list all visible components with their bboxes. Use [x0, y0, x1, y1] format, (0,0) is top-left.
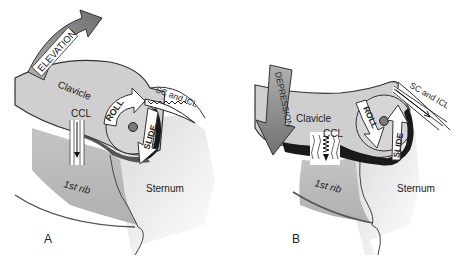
sternum-label: Sternum — [397, 183, 435, 194]
panel-b: DEPRESSION ROLL SLIDE Clavicle CCL SC an… — [255, 65, 451, 255]
ccl-label: CCL — [323, 128, 343, 139]
panel-a-label: A — [44, 232, 52, 246]
panel-a: ELEVATION ROLL SLIDE Clavicle CCL SC and… — [15, 10, 215, 255]
diagram-canvas: ELEVATION ROLL SLIDE Clavicle CCL SC and… — [0, 0, 464, 263]
sternum-label: Sternum — [146, 183, 184, 194]
ccl-label: CCL — [71, 108, 91, 119]
axis-dot — [129, 123, 138, 132]
clavicle-label: Clavicle — [296, 113, 331, 124]
panel-b-label: B — [292, 232, 300, 246]
axis-dot — [380, 117, 389, 126]
